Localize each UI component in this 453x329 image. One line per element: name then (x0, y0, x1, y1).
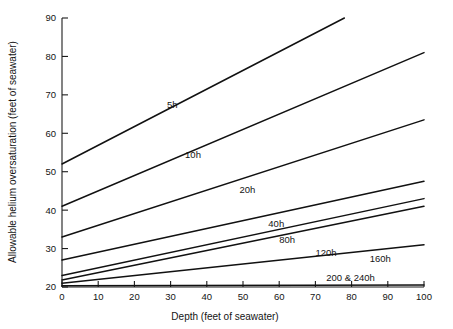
curve-group (62, 18, 424, 286)
helium-oversaturation-chart: 2030405060708090 0102030405060708090100 … (0, 0, 453, 329)
y-tick-label: 50 (45, 166, 56, 177)
curve-label-200-240h: 200 & 240h (326, 272, 375, 283)
x-tick-label: 30 (165, 291, 176, 302)
x-tick-label: 20 (129, 291, 140, 302)
curve-5h (62, 18, 344, 164)
curve-label-80h: 80h (279, 234, 295, 245)
x-tick-label: 100 (416, 291, 432, 302)
y-tick-label: 20 (45, 281, 56, 292)
y-tick-label: 80 (45, 51, 56, 62)
x-axis-title: Depth (feet of seawater) (171, 311, 278, 322)
y-tick-label: 30 (45, 243, 56, 254)
x-tick-label: 0 (59, 291, 64, 302)
axes-group (62, 18, 424, 287)
x-tick-label: 40 (202, 291, 213, 302)
curve-120h (62, 206, 424, 280)
x-tick-label: 10 (93, 291, 104, 302)
y-tick-label: 90 (45, 12, 56, 23)
curve-label-40h: 40h (268, 218, 284, 229)
curve-label-5h: 5h (167, 99, 178, 110)
y-tick-group: 2030405060708090 (45, 12, 68, 292)
curve-label-120h: 120h (315, 247, 336, 258)
curve-20h (62, 120, 424, 237)
y-tick-label: 70 (45, 89, 56, 100)
y-axis-title: Allowable helium oversaturation (feet of… (7, 41, 18, 263)
curve-label-20h: 20h (239, 184, 255, 195)
chart-canvas: 2030405060708090 0102030405060708090100 … (0, 0, 453, 329)
curve-200-240h (62, 285, 424, 286)
curve-label-10h: 10h (185, 149, 201, 160)
x-tick-label: 60 (274, 291, 285, 302)
x-tick-label: 70 (310, 291, 321, 302)
curve-label-160h: 160h (370, 253, 391, 264)
x-tick-label: 50 (238, 291, 249, 302)
curve-label-group: 5h10h20h40h80h120h160h200 & 240h (167, 99, 391, 283)
y-tick-label: 40 (45, 205, 56, 216)
x-tick-label: 80 (346, 291, 357, 302)
x-tick-group: 0102030405060708090100 (59, 281, 432, 302)
y-tick-label: 60 (45, 128, 56, 139)
x-tick-label: 90 (383, 291, 394, 302)
